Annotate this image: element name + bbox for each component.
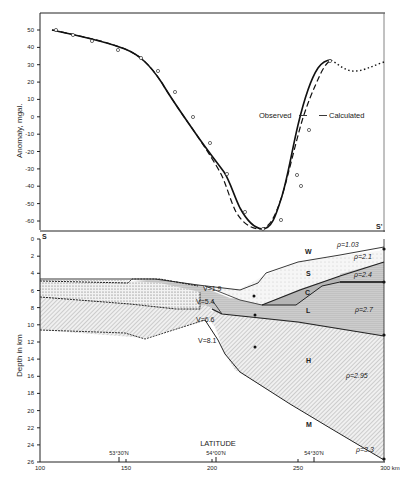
latitude-label: 54°00'N: [206, 450, 225, 456]
tick-label: 8: [31, 305, 35, 311]
x-tick-label: 100: [35, 465, 46, 471]
tick-label: 20: [27, 79, 34, 85]
tick-label: 10: [27, 96, 34, 102]
density-label: ρ=1.03: [336, 241, 359, 249]
velocity-label: V=8.1: [198, 337, 217, 344]
tick-label: 16: [27, 373, 34, 379]
layer-code: C: [305, 289, 310, 296]
latitude-ticks: 53°30'N 54°00'N 54°30'N LATITUDE: [109, 439, 323, 462]
latitude-label: 54°30'N: [304, 450, 323, 456]
tick-label: 4: [31, 270, 35, 276]
x-tick-label: 200: [207, 465, 218, 471]
gravity-profile-panel: 50 40 30 20 10 0 -10 -20 -30 -40 -50 -60…: [15, 13, 385, 240]
legend-calculated: Calculated: [329, 111, 364, 120]
layer-code: M: [306, 421, 312, 428]
tick-label: -60: [25, 218, 34, 224]
profile-start-label: S: [42, 233, 47, 240]
tick-label: 18: [27, 390, 34, 396]
x-tick-label: 150: [121, 465, 132, 471]
tick-label: -40: [25, 183, 34, 189]
bottom-y-axis-label: Depth in km: [15, 334, 24, 377]
tick-label: 10: [27, 322, 34, 328]
top-y-ticks: 50 40 30 20 10 0 -10 -20 -30 -40 -50 -60: [25, 27, 40, 224]
figure: 50 40 30 20 10 0 -10 -20 -30 -40 -50 -60…: [0, 0, 407, 488]
x-tick-label: 250: [293, 465, 304, 471]
tick-label: -20: [25, 149, 34, 155]
x-ticks: 100 150 200 250 300 km: [35, 459, 400, 471]
tick-label: 26: [27, 459, 34, 465]
legend-observed: Observed: [259, 111, 292, 120]
density-label: ρ=2.7: [354, 306, 374, 314]
layer-code: W: [305, 248, 312, 255]
density-label: ρ=2.4: [353, 271, 372, 279]
tick-label: 14: [27, 356, 34, 362]
tick-label: 12: [27, 339, 34, 345]
tick-label: 20: [27, 408, 34, 414]
latitude-axis-title: LATITUDE: [200, 439, 236, 448]
x-tick-label: 300 km: [380, 465, 400, 471]
tick-label: -10: [25, 131, 34, 137]
latitude-label: 53°30'N: [109, 450, 128, 456]
tick-label: 50: [27, 27, 34, 33]
density-label: ρ=2.95: [345, 372, 368, 380]
layer-code: H: [306, 357, 311, 364]
depth-ticks: 0 2 4 6 8 10 12 14 16 18 20 22 24 26: [27, 236, 40, 465]
tick-label: -50: [25, 201, 34, 207]
profile-end-label: S': [376, 223, 383, 230]
tick-label: 24: [27, 442, 34, 448]
tick-label: 2: [31, 253, 35, 259]
layer-code: S: [306, 270, 311, 277]
tick-label: 6: [31, 288, 35, 294]
tick-label: -30: [25, 166, 34, 172]
cross-section-panel: 0 2 4 6 8 10 12 14 16 18 20 22 24 26 Dep…: [15, 236, 400, 471]
tick-label: 30: [27, 62, 34, 68]
density-label: ρ=3.3: [355, 446, 374, 454]
tick-label: 22: [27, 425, 34, 431]
tick-label: 0: [31, 114, 35, 120]
density-label: ρ=2.1: [353, 253, 372, 261]
layer-code: L: [306, 307, 311, 314]
tick-label: 40: [27, 44, 34, 50]
velocity-label: V=1.9: [203, 285, 222, 292]
extrapolated-curve: [331, 60, 384, 71]
observed-curve: [52, 30, 331, 229]
velocity-label: V=5.4: [196, 298, 215, 305]
tick-label: 0: [31, 236, 35, 242]
calculated-curve: [52, 30, 331, 229]
velocity-label: V=6.6: [196, 316, 215, 323]
top-y-axis-label: Anomaly, mgal.: [15, 103, 24, 158]
